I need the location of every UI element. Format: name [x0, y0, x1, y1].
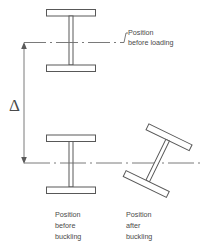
- buckled-beam-web: [146, 139, 170, 182]
- label-after-buckling-line2: after: [126, 221, 141, 230]
- label-before-buckling-line3: buckling: [55, 232, 81, 241]
- upper-beam-bottom-flange: [47, 65, 96, 72]
- label-after-buckling-line1: Position: [126, 210, 152, 219]
- dimension-arrow-up: [21, 42, 27, 49]
- lower-left-beam-bottom-flange: [47, 187, 96, 194]
- label-before-buckling-line2: before: [55, 221, 75, 230]
- label-before-loading-line2: before loading: [128, 38, 174, 47]
- buckled-beam-bottom-flange: [123, 171, 169, 198]
- label-before-loading-line1: Position: [128, 28, 154, 37]
- lower-right-i-beam: [123, 124, 192, 198]
- label-after-buckling-line3: buckling: [126, 232, 152, 241]
- deflection-dimension: [21, 42, 27, 164]
- label-before-buckling-line1: Position: [55, 210, 81, 219]
- lower-left-i-beam: [47, 135, 96, 194]
- upper-i-beam: [47, 10, 96, 72]
- buckled-beam-top-flange: [146, 124, 192, 151]
- lower-left-beam-web: [69, 142, 73, 188]
- diagram-canvas: Position before loading Δ Position b: [0, 0, 204, 250]
- buckling-diagram: Position before loading Δ Position b: [0, 0, 204, 250]
- delta-symbol: Δ: [9, 96, 20, 115]
- upper-beam-top-flange: [47, 10, 96, 17]
- before-loading-leader-line: [124, 33, 126, 43]
- lower-left-beam-top-flange: [47, 135, 96, 142]
- upper-beam-web: [69, 16, 73, 65]
